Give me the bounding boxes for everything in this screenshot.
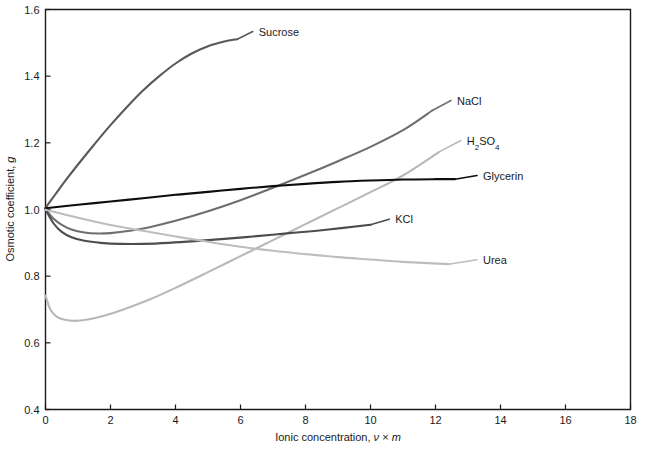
series-label-kcl: KCl: [395, 213, 413, 225]
data-curves: [46, 39, 456, 321]
leader-kcl: [370, 219, 389, 225]
leader-nacl: [432, 101, 451, 111]
y-axis-title: Osmotic coefficient, g: [4, 156, 16, 262]
series-label-sucrose: Sucrose: [259, 26, 299, 38]
leader-h2so4: [439, 141, 461, 153]
y-tick-label: 1.2: [24, 137, 39, 149]
series-label-h2so4: H2SO4: [467, 135, 500, 152]
chart-svg: 0246810121416180.40.60.81.01.21.41.6 Suc…: [0, 0, 649, 452]
y-tick-label: 0.4: [24, 404, 39, 416]
leader-sucrose: [237, 32, 253, 40]
x-tick-label: 6: [237, 414, 243, 426]
osmotic-coefficient-chart: 0246810121416180.40.60.81.01.21.41.6 Suc…: [0, 0, 649, 452]
x-tick-label: 0: [42, 414, 48, 426]
series-label-urea: Urea: [483, 254, 508, 266]
x-tick-label: 12: [429, 414, 441, 426]
plot-frame: [46, 10, 631, 410]
series-labels: SucroseNaClH2SO4GlycerinKClUrea: [259, 26, 524, 266]
y-tick-label: 0.8: [24, 270, 39, 282]
y-tick-label: 1.4: [24, 70, 39, 82]
y-tick-label: 1.0: [24, 204, 39, 216]
curve-nacl: [46, 111, 433, 234]
curve-sucrose: [46, 39, 238, 208]
label-leader-lines: [237, 32, 477, 265]
plot-border: [46, 10, 631, 410]
x-tick-label: 2: [107, 414, 113, 426]
y-tick-label: 1.6: [24, 4, 39, 16]
x-axis-title: Ionic concentration, ν × m: [275, 431, 401, 443]
y-tick-label: 0.6: [24, 337, 39, 349]
axis-tick-labels: 0246810121416180.40.60.81.01.21.41.6: [24, 4, 636, 426]
x-tick-label: 16: [559, 414, 571, 426]
x-tick-label: 8: [302, 414, 308, 426]
series-label-glycerin: Glycerin: [483, 170, 523, 182]
leader-glycerin: [455, 176, 477, 180]
x-tick-label: 4: [172, 414, 178, 426]
x-tick-label: 10: [364, 414, 376, 426]
x-tick-label: 14: [494, 414, 506, 426]
curve-glycerin: [46, 179, 456, 208]
leader-urea: [449, 260, 478, 264]
x-tick-label: 18: [624, 414, 636, 426]
series-label-nacl: NaCl: [457, 95, 481, 107]
curve-kcl: [46, 210, 371, 244]
axis-ticks: [46, 10, 631, 410]
